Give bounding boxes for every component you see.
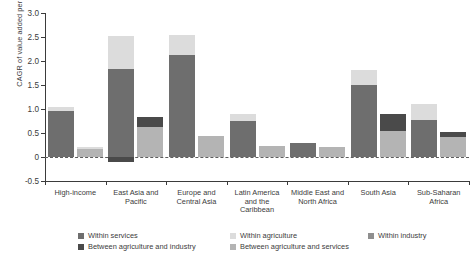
legend-swatch-icon [368, 233, 374, 239]
bar-segment [198, 136, 224, 157]
bar-segment [259, 146, 285, 157]
bar-segment [411, 120, 437, 157]
bar-stack [351, 13, 377, 181]
x-group-tick [408, 181, 409, 185]
bar-stack [198, 13, 224, 181]
bar-segment [440, 137, 466, 157]
x-group-tick [287, 181, 288, 185]
bar-segment [137, 117, 163, 128]
y-tick-label: -0.5 [25, 177, 39, 186]
bar-segment [411, 104, 437, 120]
y-tick-label: 0.5 [28, 129, 39, 138]
bar-stack [108, 13, 134, 181]
bar-stack [411, 13, 437, 181]
y-tick-label: 2.5 [28, 33, 39, 42]
bar-segment [169, 35, 195, 55]
bar-segment [351, 70, 377, 85]
bar-stack [440, 13, 466, 181]
bar-stack [380, 13, 406, 181]
chart-legend: Within servicesWithin agricultureWithin … [78, 231, 470, 261]
x-label-line: North Africa [281, 198, 354, 207]
y-tick-label: 0 [34, 153, 39, 162]
y-axis-title: CAGR of value added per worker (%) [15, 0, 24, 100]
bar-segment [290, 143, 316, 157]
bar-stack [230, 13, 256, 181]
y-tick-label: 3.0 [28, 9, 39, 18]
x-group-tick [106, 181, 107, 185]
bar-segment [230, 121, 256, 157]
bar-segment [48, 107, 74, 111]
chart-container: CAGR of value added per worker (%) 3.02.… [0, 0, 476, 266]
bar-stack [137, 13, 163, 181]
legend-swatch-icon [230, 244, 236, 250]
x-group-tick [166, 181, 167, 185]
bar-segment [319, 147, 345, 157]
bar-segment [108, 157, 134, 162]
legend-item[interactable]: Within industry [368, 231, 426, 240]
legend-item[interactable]: Between agriculture and industry [78, 242, 196, 251]
x-group-tick [348, 181, 349, 185]
bar-segment [169, 55, 195, 157]
legend-item[interactable]: Within services [78, 231, 138, 240]
x-label-line: Africa [402, 198, 475, 207]
y-tick-label: 1.0 [28, 105, 39, 114]
x-group-tick [227, 181, 228, 185]
plot-area: 3.02.52.01.51.00.50-0.5 [45, 13, 469, 181]
bar-stack [319, 13, 345, 181]
bar-segment [108, 69, 134, 157]
bar-stack [169, 13, 195, 181]
x-axis-line [45, 181, 469, 182]
legend-item[interactable]: Between agriculture and services [230, 242, 349, 251]
legend-label: Within services [88, 231, 138, 240]
legend-swatch-icon [230, 233, 236, 239]
legend-swatch-icon [78, 233, 84, 239]
bar-stack [259, 13, 285, 181]
legend-label: Between agriculture and industry [88, 242, 196, 251]
y-tick-label: 1.5 [28, 81, 39, 90]
bar-segment [380, 114, 406, 131]
bar-segment [440, 132, 466, 137]
legend-label: Between agriculture and services [240, 242, 349, 251]
x-axis-label: Sub-SaharanAfrica [402, 189, 475, 206]
bar-segment [77, 149, 103, 157]
x-group-tick [45, 181, 46, 185]
bar-segment [77, 147, 103, 149]
bar-stack [48, 13, 74, 181]
bar-segment [48, 111, 74, 157]
legend-item[interactable]: Within agriculture [230, 231, 297, 240]
bar-segment [108, 36, 134, 70]
y-tick-label: 2.0 [28, 57, 39, 66]
bar-stack [77, 13, 103, 181]
bar-series-layer [45, 13, 469, 181]
legend-label: Within industry [378, 231, 426, 240]
bar-segment [351, 85, 377, 157]
x-axis-labels: High-incomeEast Asia andPacificEurope an… [45, 189, 469, 229]
bar-segment [230, 114, 256, 121]
legend-label: Within agriculture [240, 231, 297, 240]
x-label-line: Caribbean [221, 206, 294, 215]
bar-segment [380, 131, 406, 157]
bar-stack [290, 13, 316, 181]
legend-swatch-icon [78, 244, 84, 250]
bar-segment [137, 127, 163, 157]
x-group-tick [469, 181, 470, 185]
